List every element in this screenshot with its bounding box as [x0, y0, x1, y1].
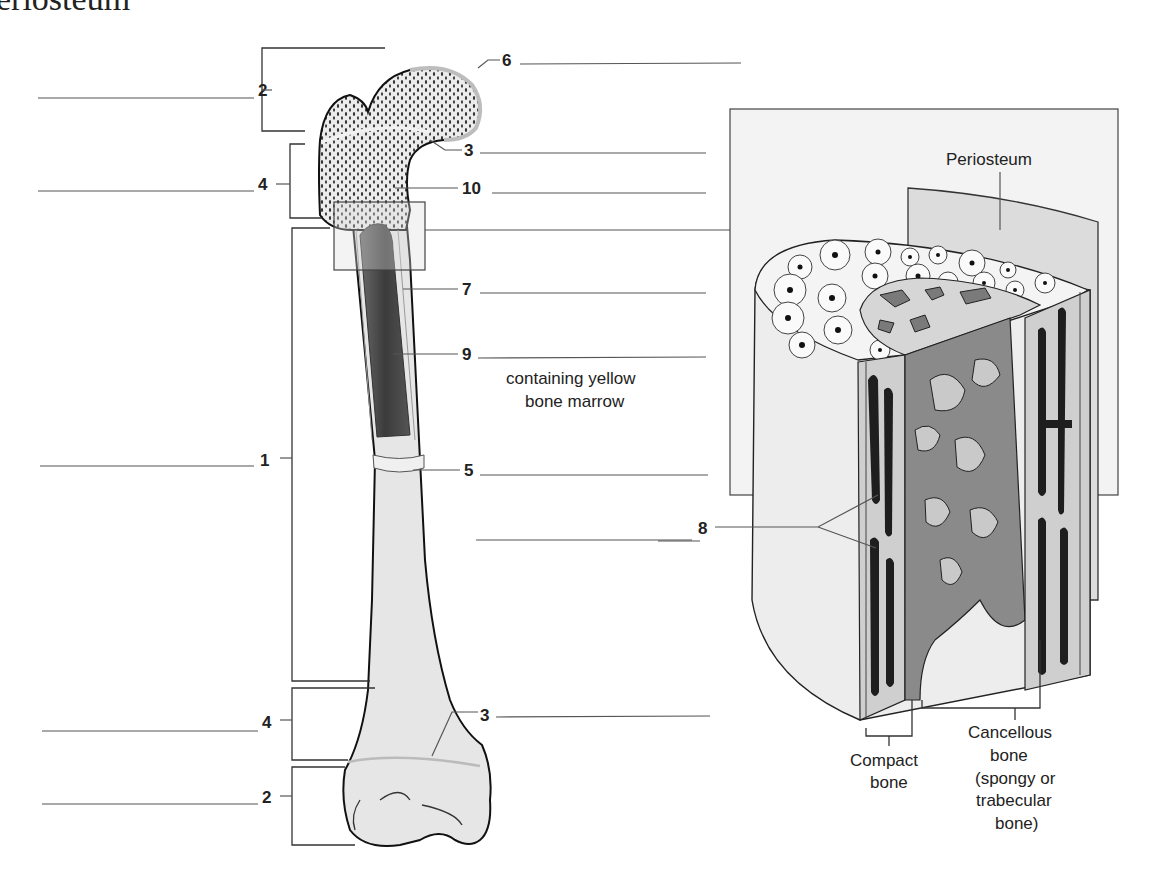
cancellous-label-line5: bone)	[995, 814, 1038, 833]
label-1: 1	[260, 451, 269, 470]
cancellous-label-line3: (spongy or	[975, 769, 1056, 788]
label-6: 6	[502, 51, 511, 70]
label-2-bottom: 2	[262, 788, 271, 807]
label-5: 5	[464, 461, 473, 480]
label-3-bottom: 3	[480, 706, 489, 725]
femur-shaft	[343, 215, 490, 846]
cancellous-label-line1: Cancellous	[968, 723, 1052, 742]
label-4-top: 4	[258, 175, 268, 194]
femur-illustration	[319, 68, 730, 846]
cancellous-label-line4: trabecular	[976, 791, 1052, 810]
label-3-top: 3	[464, 141, 473, 160]
label-8: 8	[698, 519, 707, 538]
marrow-note-line1: containing yellow	[506, 369, 636, 388]
label-4-bottom: 4	[262, 713, 272, 732]
bone-cross-section-panel: Periosteum	[658, 109, 1118, 833]
label-9: 9	[462, 345, 471, 364]
label-7: 7	[462, 280, 471, 299]
right-label-set: 6 3 10 7 9 containing yellow bone marrow…	[393, 51, 741, 756]
periosteum-label: Periosteum	[946, 150, 1032, 169]
marrow-note-line2: bone marrow	[525, 392, 625, 411]
left-label-set: 2 4 1 4 2	[38, 81, 292, 807]
label-10: 10	[462, 179, 481, 198]
compact-bone-label-line2: bone	[870, 773, 908, 792]
detail-region-box	[334, 202, 425, 270]
bone-diagram: 2 4 1 4 2 6 3 10 7 9 containing yellow b…	[0, 0, 1170, 879]
compact-bone-label-line1: Compact	[850, 751, 918, 770]
cancellous-label-line2: bone	[990, 746, 1028, 765]
